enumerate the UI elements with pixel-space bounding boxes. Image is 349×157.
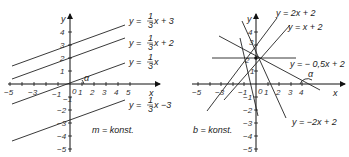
right-ytick: −2 — [243, 106, 253, 115]
label-neg-2x-plus-2: y = −2x + 2 — [291, 117, 337, 127]
label-third-x-plus-2: y = 1 3 x + 2 — [128, 33, 174, 52]
right-panel: −5 −3 −1 1 2 3 4 4 3 2 1 −1 −2 −3 −4 −5 … — [192, 8, 345, 154]
svg-text:3: 3 — [148, 61, 153, 71]
label-third-x-minus-3: y = 1 3 x −3 — [128, 95, 171, 114]
svg-text:y =: y = — [128, 100, 141, 110]
line-third-x-plus-2 — [12, 38, 125, 79]
right-note: b = konst. — [193, 125, 232, 135]
svg-text:y =: y = — [128, 57, 141, 67]
left-origin-label: 0 — [72, 87, 77, 96]
diagram-canvas: −5 −3 −1 1 2 3 4 5 4 3 2 1 −1 −2 −3 −4 −… — [0, 0, 349, 157]
left-ytick: 4 — [60, 28, 65, 37]
right-ytick: −4 — [243, 132, 253, 141]
svg-text:x + 3: x + 3 — [153, 16, 174, 26]
left-ytick: −3 — [57, 119, 67, 128]
left-y-axis-label: y — [60, 14, 66, 24]
label-third-x-plus-3: y = 1 3 x + 3 — [128, 11, 174, 30]
left-ytick: −5 — [57, 145, 67, 154]
svg-text:x −3: x −3 — [153, 100, 171, 110]
left-ytick: −1 — [63, 95, 72, 104]
svg-text:3: 3 — [148, 42, 153, 52]
line-2x-plus-2 — [207, 18, 277, 111]
left-panel: −5 −3 −1 1 2 3 4 5 4 3 2 1 −1 −2 −3 −4 −… — [4, 11, 174, 154]
left-angle-label: α — [84, 73, 90, 83]
left-xtick: 1 — [78, 88, 82, 97]
left-ytick: −2 — [57, 106, 67, 115]
right-y-axis-label: y — [246, 14, 252, 24]
left-xtick: −5 — [4, 88, 14, 97]
label-x-plus-2: y = x + 2 — [287, 22, 323, 32]
svg-text:y =: y = — [128, 38, 141, 48]
left-xtick: −1 — [52, 90, 61, 99]
left-ytick: 1 — [60, 67, 64, 76]
left-ytick: −4 — [57, 132, 67, 141]
right-xtick: 4 — [299, 88, 304, 97]
svg-text:x + 2: x + 2 — [153, 38, 174, 48]
label-2x-plus-2: y = 2x + 2 — [275, 8, 316, 18]
left-xtick: 5 — [126, 88, 131, 97]
line-third-x-plus-3 — [12, 25, 125, 66]
svg-text:3: 3 — [148, 20, 153, 30]
right-angle-label: α — [308, 69, 314, 79]
label-third-x: y = 1 3 x — [128, 52, 159, 71]
svg-text:3: 3 — [148, 104, 153, 114]
right-ytick: −3 — [243, 119, 253, 128]
right-ytick: −5 — [243, 145, 253, 154]
svg-text:y =: y = — [128, 16, 141, 26]
svg-text:x: x — [153, 57, 159, 67]
right-ytick: −1 — [243, 93, 252, 102]
right-xtick: 1 — [264, 88, 268, 97]
right-origin-label: 0 — [258, 87, 263, 96]
right-xtick: −5 — [192, 88, 202, 97]
left-xtick: 3 — [102, 88, 107, 97]
pivot-point — [254, 56, 258, 60]
left-note: m = konst. — [92, 125, 134, 135]
right-xtick: 3 — [288, 88, 293, 97]
label-neg-half-x-plus-2: y = − 0,5x + 2 — [289, 59, 345, 69]
left-xtick: 2 — [89, 88, 95, 97]
left-xtick: 4 — [114, 88, 119, 97]
right-x-axis-label: x — [332, 88, 338, 98]
